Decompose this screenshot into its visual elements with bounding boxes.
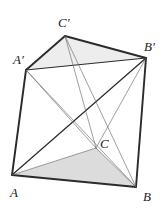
shaded-faces-group xyxy=(12,36,146,187)
vertex-label-Cp: C′ xyxy=(58,16,70,29)
vertex-label-C: C xyxy=(100,137,109,150)
edge-A-Ap xyxy=(12,70,26,175)
edge-Bp-B xyxy=(136,58,146,187)
vertex-label-B: B xyxy=(143,190,151,203)
vertex-label-A: A xyxy=(10,186,18,199)
geometry-figure: ABCA′B′C′ xyxy=(0,0,165,211)
vertex-label-Bp: B′ xyxy=(144,40,155,53)
diagonal-Bp-C xyxy=(96,58,146,148)
figure-canvas xyxy=(0,0,165,211)
vertex-label-Ap: A′ xyxy=(13,53,24,66)
